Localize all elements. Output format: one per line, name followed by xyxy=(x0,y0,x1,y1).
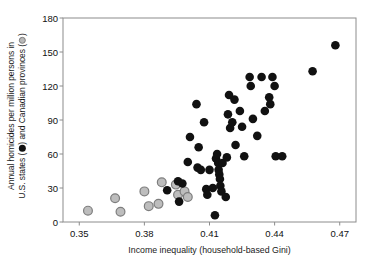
data-point-us-state xyxy=(231,141,240,150)
data-point-us-state xyxy=(270,82,279,91)
scatter-chart-figure: Annual homicides per million persons in … xyxy=(0,0,374,271)
data-points xyxy=(84,41,340,220)
data-point-us-state xyxy=(200,118,209,127)
data-point-canadian-province xyxy=(157,178,166,187)
data-point-us-state xyxy=(261,107,270,116)
data-point-us-state xyxy=(205,166,214,175)
data-point-us-state xyxy=(224,110,233,119)
data-point-us-state xyxy=(211,211,220,220)
data-point-us-state xyxy=(331,41,340,50)
data-point-us-state xyxy=(308,67,317,76)
data-point-us-state xyxy=(213,150,222,159)
data-point-us-state xyxy=(203,191,212,200)
data-point-us-state xyxy=(245,73,254,82)
data-point-us-state xyxy=(186,133,195,142)
data-point-us-state xyxy=(257,73,266,82)
data-point-canadian-province xyxy=(116,207,125,216)
data-point-us-state xyxy=(228,118,237,127)
data-point-us-state xyxy=(266,100,275,109)
data-point-canadian-province xyxy=(144,202,153,211)
data-point-us-state xyxy=(230,95,239,104)
data-point-us-state xyxy=(246,82,255,91)
data-point-us-state xyxy=(268,73,277,82)
data-point-us-state xyxy=(249,115,258,124)
data-point-us-state xyxy=(184,158,193,167)
data-point-canadian-province xyxy=(84,206,93,215)
data-point-us-state xyxy=(208,184,217,193)
plot-area xyxy=(0,0,374,271)
data-point-us-state xyxy=(236,107,245,116)
data-point-canadian-province xyxy=(183,193,192,202)
data-point-us-state xyxy=(221,193,230,202)
data-point-canadian-province xyxy=(111,194,120,203)
data-point-us-state xyxy=(192,100,201,109)
data-point-us-state xyxy=(278,152,287,161)
data-point-us-state xyxy=(223,153,232,162)
data-point-canadian-province xyxy=(154,199,163,208)
data-point-canadian-province xyxy=(140,187,149,196)
data-point-us-state xyxy=(163,186,172,195)
data-point-us-state xyxy=(197,166,206,175)
data-point-us-state xyxy=(240,152,249,161)
axis-ticks xyxy=(60,18,340,226)
data-point-us-state xyxy=(178,179,187,188)
data-point-us-state xyxy=(175,197,184,206)
data-point-us-state xyxy=(253,132,262,141)
data-point-us-state xyxy=(194,143,203,152)
data-point-us-state xyxy=(238,123,247,132)
